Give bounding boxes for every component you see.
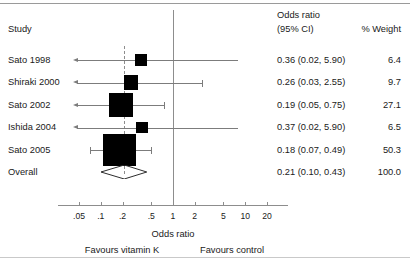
- study-label: Ishida 2004: [8, 123, 56, 132]
- plot-area: Sato 19980.36 (0.02, 5.90)6.4Shiraki 200…: [0, 0, 410, 262]
- study-label: Sato 2005: [8, 146, 50, 155]
- x-axis-tick: [101, 202, 102, 205]
- study-weight-text: 6.4: [388, 56, 401, 65]
- confidence-interval-line: [77, 60, 238, 61]
- confidence-interval-line: [77, 128, 238, 129]
- ci-right-cap: [151, 147, 152, 154]
- overall-label: Overall: [8, 168, 37, 177]
- study-weight-text: 9.7: [388, 78, 401, 87]
- x-axis-tick: [267, 202, 268, 205]
- forest-plot-figure: Study Odds ratio (95% CI) % Weight Sato …: [0, 0, 410, 262]
- study-label: Sato 1998: [8, 56, 50, 65]
- x-axis-tick: [151, 202, 152, 205]
- left-footer-label: Favours vitamin K: [85, 246, 159, 255]
- x-axis-tick-label: .2: [119, 212, 126, 221]
- overall-effect-text: 0.21 (0.10, 0.43): [277, 168, 345, 177]
- effect-estimate-text: 0.36 (0.02, 5.90): [277, 56, 345, 65]
- ci-right-cap: [202, 80, 203, 87]
- study-marker-box: [103, 134, 136, 167]
- ci-left-cap: [90, 147, 91, 154]
- x-axis-tick-label: .1: [97, 212, 104, 221]
- effect-estimate-text: 0.37 (0.02, 5.90): [277, 123, 345, 132]
- x-axis-tick-label: .5: [148, 212, 155, 221]
- x-axis-tick-label: 1: [171, 212, 176, 221]
- study-weight-text: 27.1: [383, 101, 401, 110]
- overall-weight-text: 100.0: [378, 168, 401, 177]
- null-reference-line: [173, 10, 174, 205]
- x-axis-tick: [195, 202, 196, 205]
- effect-estimate-text: 0.18 (0.07, 0.49): [277, 146, 345, 155]
- study-weight-text: 50.3: [383, 146, 401, 155]
- x-axis-line: [58, 205, 288, 206]
- study-label: Shiraki 2000: [8, 78, 60, 87]
- study-marker-box: [124, 75, 138, 89]
- ci-right-cap: [164, 102, 165, 109]
- study-weight-text: 6.5: [388, 123, 401, 132]
- effect-estimate-text: 0.26 (0.03, 2.55): [277, 78, 345, 87]
- x-axis-tick: [173, 202, 174, 205]
- study-marker-box: [109, 93, 133, 117]
- right-footer-label: Favours control: [200, 246, 264, 255]
- ci-left-arrowhead: [73, 80, 78, 84]
- study-label: Sato 2002: [8, 101, 50, 110]
- overall-effect-diamond: [101, 165, 147, 179]
- x-axis-tick-label: 20: [262, 212, 272, 221]
- x-axis-tick-label: 5: [221, 212, 226, 221]
- confidence-interval-line: [77, 83, 202, 84]
- x-axis-tick-label: .05: [73, 212, 85, 221]
- x-axis-tick: [79, 202, 80, 205]
- x-axis-title: Odds ratio: [152, 230, 195, 239]
- x-axis-tick: [123, 202, 124, 205]
- ci-left-arrowhead: [73, 58, 78, 62]
- x-axis-tick-label: 2: [192, 212, 197, 221]
- ci-left-arrowhead: [73, 125, 78, 129]
- x-axis-tick: [223, 202, 224, 205]
- x-axis-tick: [245, 202, 246, 205]
- x-axis-tick-label: 10: [240, 212, 250, 221]
- effect-estimate-text: 0.19 (0.05, 0.75): [277, 101, 345, 110]
- study-marker-box: [136, 122, 148, 134]
- study-marker-box: [135, 54, 147, 66]
- ci-left-arrowhead: [73, 103, 78, 107]
